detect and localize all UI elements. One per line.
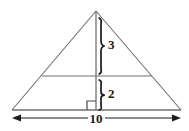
geometry-figure-svg: 3 2 10 bbox=[0, 0, 189, 131]
label-lower-segment: 2 bbox=[108, 86, 115, 101]
label-base-length: 10 bbox=[90, 111, 103, 126]
geometry-figure-container: 3 2 10 bbox=[0, 0, 189, 131]
label-upper-segment: 3 bbox=[108, 37, 115, 52]
